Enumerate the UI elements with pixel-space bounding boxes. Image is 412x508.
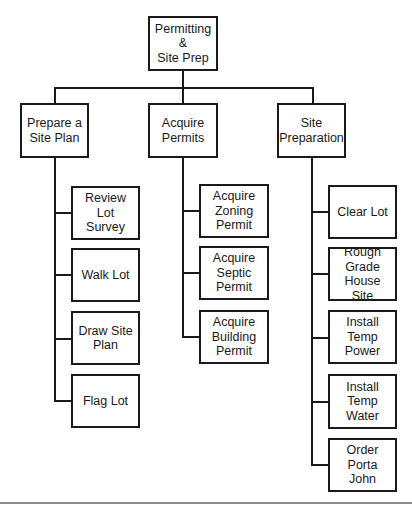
tick-temp-water [311,401,328,403]
node-install-temp-power: Install Temp Power [328,310,397,364]
tick-review-lot-survey [54,212,71,214]
node-acquire-permits: Acquire Permits [148,103,218,158]
branch-stem-3 [312,87,314,104]
node-clear-lot: Clear Lot [328,185,397,239]
node-flag-lot: Flag Lot [71,374,140,428]
tick-walk-lot [54,274,71,276]
tick-flag-lot [54,400,71,402]
branch-stem-2 [182,87,184,104]
tick-rough-grade [311,273,328,275]
tick-draw-site-plan [54,338,71,340]
branch-stem-1 [54,87,56,104]
node-acquire-building-permit: Acquire Building Permit [199,310,269,364]
spine-acquire-permits [182,157,184,338]
node-site-preparation: Site Preparation [277,103,346,158]
node-acquire-zoning-permit: Acquire Zoning Permit [199,184,269,238]
node-root: Permitting & Site Prep [148,16,218,71]
tick-temp-power [311,337,328,339]
node-review-lot-survey: Review Lot Survey [71,186,140,240]
tick-clear-lot [311,211,328,213]
node-draw-site-plan: Draw Site Plan [71,311,140,365]
spine-prepare-site-plan [54,157,56,402]
node-rough-grade-house-site: Rough Grade House Site [328,247,397,301]
tick-porta-john [311,464,328,466]
level1-bus [54,87,314,89]
node-order-porta-john: Order Porta John [328,438,397,492]
spine-site-preparation [311,157,313,466]
tick-septic [182,272,199,274]
tick-zoning [182,210,199,212]
node-walk-lot: Walk Lot [71,248,140,302]
figure-caption-clipped [2,504,132,508]
tick-building [182,336,199,338]
node-install-temp-water: Install Temp Water [328,374,397,429]
node-acquire-septic-permit: Acquire Septic Permit [199,246,269,300]
node-prepare-site-plan: Prepare a Site Plan [20,103,89,158]
